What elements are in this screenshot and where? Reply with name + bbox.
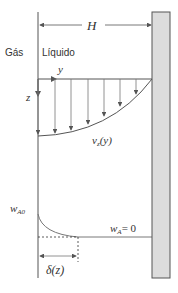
boundary-layer-label: δ(z) <box>46 263 64 277</box>
solid-wall <box>152 12 170 278</box>
z-axis-label: z <box>25 91 31 103</box>
bulk-fraction-label: wA= 0 <box>110 222 137 236</box>
falling-film-diagram: H Gás Líquido y z vz(y) wA0 wA= 0 δ(z) <box>0 0 178 293</box>
liquid-label: Líquido <box>42 47 75 58</box>
velocity-arrows <box>38 79 136 134</box>
width-label: H <box>86 18 97 33</box>
y-axis-label: y <box>57 63 63 75</box>
gas-label: Gás <box>5 47 23 58</box>
velocity-profile-label: vz(y) <box>92 134 112 148</box>
concentration-profile-curve <box>38 214 78 237</box>
interface-fraction-label: wA0 <box>10 202 26 216</box>
